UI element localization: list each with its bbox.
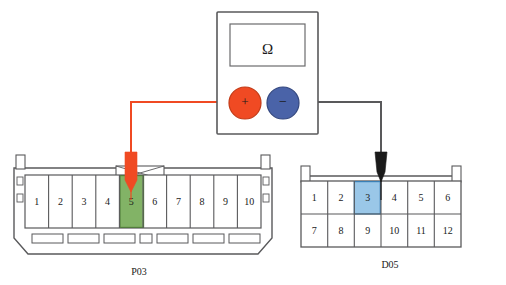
d05-pin-3: 3 [365, 192, 370, 203]
p03-pin-3: 3 [82, 196, 87, 207]
p03-pin-8: 8 [200, 196, 205, 207]
p03-pin-9: 9 [223, 196, 228, 207]
plus-icon: + [241, 94, 248, 109]
multimeter[interactable]: Ω + − [217, 12, 318, 134]
ohm-symbol: Ω [262, 41, 273, 57]
d05-pin-5: 5 [419, 192, 424, 203]
d05-pin-6: 6 [445, 192, 450, 203]
d05-pin-4: 4 [392, 192, 397, 203]
d05-left-tab [301, 166, 310, 182]
connector-p03[interactable]: 1 2 3 4 5 6 7 8 9 10 P03 [14, 155, 272, 277]
d05-pin-11: 11 [416, 225, 426, 236]
d05-pin-12: 12 [443, 225, 453, 236]
p03-pin-2: 2 [58, 196, 63, 207]
p03-right-clip-upper [263, 177, 269, 185]
negative-terminal[interactable]: − [267, 87, 299, 119]
diagram-svg: Ω + − [0, 0, 506, 285]
d05-pin-1: 1 [312, 192, 317, 203]
d05-pin-10: 10 [389, 225, 399, 236]
p03-pin-7: 7 [176, 196, 181, 207]
p03-left-clip-lower [17, 194, 23, 202]
p03-label: P03 [131, 266, 147, 277]
d05-pin-2: 2 [339, 192, 344, 203]
d05-pin-8: 8 [339, 225, 344, 236]
p03-pin-10: 10 [244, 196, 254, 207]
d05-pin-7: 7 [312, 225, 317, 236]
p03-right-clip-lower [263, 194, 269, 202]
d05-pin-9: 9 [365, 225, 370, 236]
p03-right-tab [261, 155, 270, 169]
positive-terminal[interactable]: + [229, 87, 261, 119]
p03-left-tab [16, 155, 25, 169]
minus-icon: − [279, 94, 287, 109]
p03-left-clip-upper [17, 177, 23, 185]
d05-label: D05 [381, 259, 398, 270]
p03-pin-4: 4 [105, 196, 110, 207]
d05-right-tab [452, 166, 461, 182]
diagram-canvas: Ω + − [0, 0, 506, 285]
p03-pin-1: 1 [34, 196, 39, 207]
p03-pin-6: 6 [152, 196, 157, 207]
